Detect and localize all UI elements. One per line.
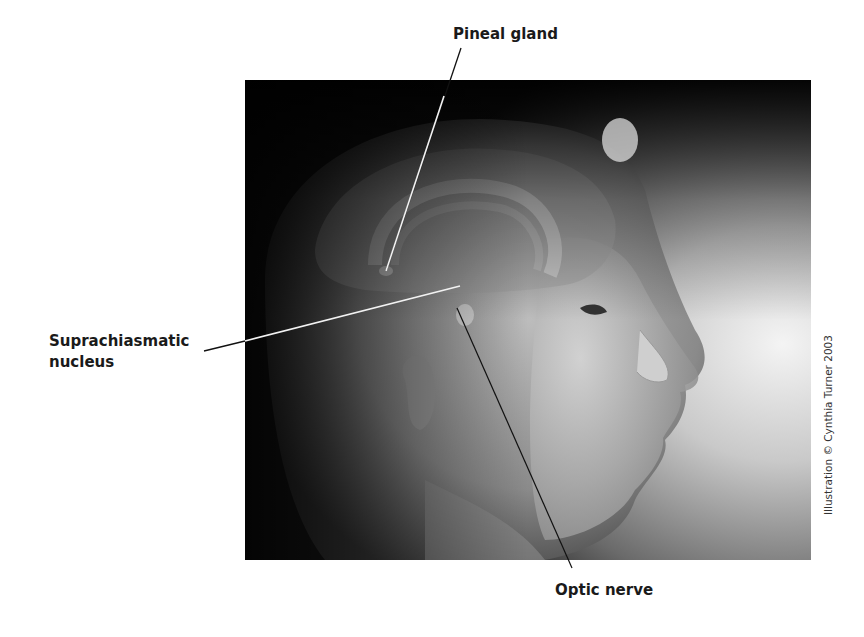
brain-anatomy-illustration — [245, 80, 811, 560]
pineal-gland-label: Pineal gland — [453, 25, 558, 43]
illustration-art — [245, 80, 811, 560]
scn-leader-line — [204, 341, 245, 351]
scn-label-line1: Suprachiasmatic — [49, 332, 189, 350]
optic-nerve-label: Optic nerve — [555, 581, 653, 599]
illustration-credit: Illustration © Cynthia Turner 2003 — [822, 335, 834, 515]
scn-label-line2: nucleus — [49, 353, 114, 371]
